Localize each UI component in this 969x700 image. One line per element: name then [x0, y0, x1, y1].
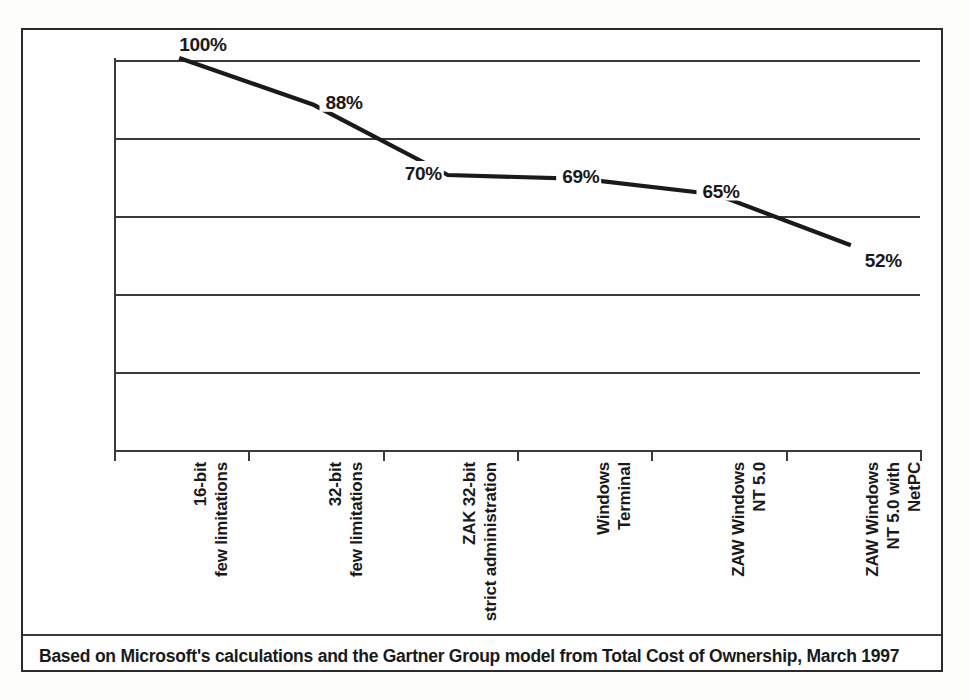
- x-category-text: 32-bit few limitations: [325, 462, 355, 662]
- x-category-text: ZAK 32-bit strict administration: [459, 462, 489, 662]
- x-category-label-2: 32-bit few limitations: [301, 462, 331, 672]
- plot-area: [114, 60, 920, 450]
- data-label-2: 88%: [324, 92, 365, 114]
- data-label-5: 65%: [701, 181, 742, 203]
- x-axis-tick: [114, 450, 116, 461]
- x-category-label-3: ZAK 32-bit strict administration: [435, 462, 465, 672]
- gridline-20pct: [114, 372, 920, 374]
- gridline-40pct: [114, 294, 920, 296]
- data-label-1: 100%: [177, 34, 228, 56]
- x-category-text: ZAW Windows NT 5.0: [728, 462, 758, 662]
- x-axis-tick: [517, 450, 519, 461]
- data-label-6: 52%: [863, 250, 904, 272]
- x-category-label-5: ZAW Windows NT 5.0: [704, 462, 734, 672]
- x-category-label-4: Windows Terminal: [569, 462, 599, 672]
- chart-figure: 0%20%40%60%80%100% 16-bit few limitation…: [0, 0, 969, 700]
- data-label-4: 69%: [560, 166, 601, 188]
- gridline-100pct: [114, 60, 920, 62]
- x-category-label-1: 16-bit few limitations: [166, 462, 196, 672]
- x-axis-tick: [786, 450, 788, 461]
- x-axis-tick: [383, 450, 385, 461]
- gridline-60pct: [114, 216, 920, 218]
- x-axis-tick: [248, 450, 250, 461]
- data-label-3: 70%: [403, 163, 444, 185]
- chart-frame: 0%20%40%60%80%100% 16-bit few limitation…: [21, 28, 943, 672]
- caption-divider: [23, 634, 941, 636]
- x-category-text: 16-bit few limitations: [190, 462, 220, 662]
- x-category-text: ZAW Windows NT 5.0 with NetPC: [862, 462, 892, 662]
- x-category-label-6: ZAW Windows NT 5.0 with NetPC: [838, 462, 868, 672]
- chart-caption: Based on Microsoft's calculations and th…: [39, 646, 929, 667]
- y-axis-labels: 0%20%40%60%80%100%: [23, 30, 109, 700]
- x-category-text: Windows Terminal: [593, 462, 623, 662]
- x-axis-tick: [651, 450, 653, 461]
- gridline-80pct: [114, 138, 920, 140]
- x-axis-tick: [920, 450, 922, 461]
